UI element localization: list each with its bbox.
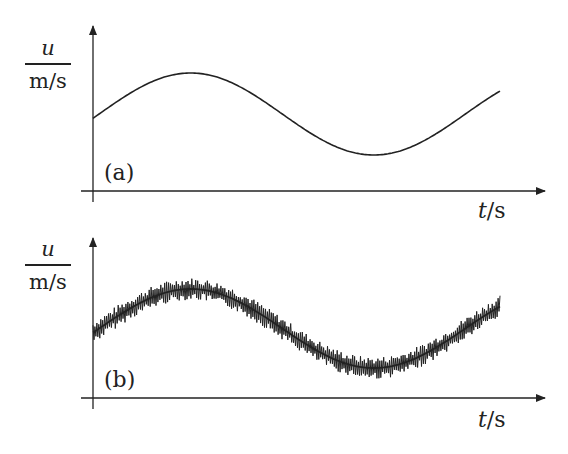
x-label-variable: t	[478, 407, 487, 432]
velocity-curve	[93, 73, 500, 155]
y-label-variable: u	[18, 38, 78, 63]
chart-a-plot	[0, 0, 568, 227]
y-label-unit: m/s	[18, 266, 78, 293]
x-label-unit: /s	[487, 198, 506, 223]
panel-b: u m/s (b) t/s	[0, 227, 568, 454]
y-label-variable: u	[18, 239, 78, 264]
y-axis-label: u m/s	[18, 38, 78, 92]
x-label-unit: /s	[487, 407, 506, 432]
x-axis-label: t/s	[478, 198, 506, 223]
panel-tag: (a)	[104, 160, 134, 185]
y-label-unit: m/s	[18, 65, 78, 92]
x-label-variable: t	[478, 198, 487, 223]
panel-a: u m/s (a) t/s	[0, 0, 568, 227]
y-axis-label: u m/s	[18, 239, 78, 293]
fluctuating-velocity-curve	[93, 279, 500, 379]
x-axis-label: t/s	[478, 407, 506, 432]
panel-tag: (b)	[104, 367, 135, 392]
